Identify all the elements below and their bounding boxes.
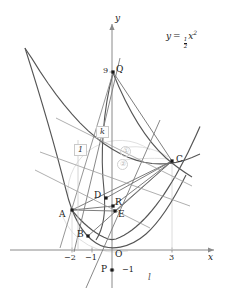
point-P: [110, 268, 113, 271]
annotation-callout-2: ②: [117, 159, 128, 170]
point-label-P: P: [101, 265, 107, 274]
x-tick-label-3: 3: [169, 254, 174, 262]
equation-denominator: 2: [184, 43, 188, 50]
point-D: [104, 196, 107, 199]
x-tick-label--2: −2: [64, 254, 76, 262]
segment-A-E: [72, 210, 115, 211]
plotted-points: [70, 70, 173, 271]
origin-label: O: [115, 250, 122, 259]
y-tick-label-9: 9: [103, 67, 108, 75]
equation-label: y=12x2: [166, 30, 197, 49]
point-label-B: B: [77, 230, 84, 239]
point-label-C: C: [176, 155, 183, 164]
point-label-R: R: [115, 198, 122, 207]
equation-lhs: y: [166, 31, 171, 41]
point-E: [113, 209, 116, 212]
equation-fraction: 12: [184, 37, 188, 50]
y-tick-label--1: −1: [122, 266, 134, 274]
measure-label-1: 1: [74, 144, 87, 156]
line-Q-down-left: [60, 73, 113, 248]
math-figure: x y O −2 −1 3 9 −1 A B C D E P Q R y=12x…: [0, 0, 225, 298]
tick-marks: [72, 72, 172, 270]
point-B: [86, 234, 89, 237]
equation-exponent: 2: [193, 29, 197, 36]
y-axis-label: y: [115, 14, 120, 23]
point-C: [170, 159, 173, 162]
point-label-D: D: [94, 191, 101, 200]
point-label-E: E: [118, 210, 125, 219]
annotation-callout-1: ①: [120, 146, 131, 157]
point-A: [70, 208, 73, 211]
point-label-A: A: [59, 210, 66, 219]
line-label-l: l: [148, 273, 151, 282]
y-axis-arrow: [109, 24, 114, 30]
tangent-line-A: [35, 170, 150, 228]
x-tick-label--1: −1: [85, 254, 97, 262]
x-axis-label: x: [208, 253, 213, 262]
axis-group: [10, 24, 214, 288]
line-l: [86, 120, 160, 288]
secondary-conic: [25, 48, 186, 248]
point-label-Q: Q: [116, 65, 123, 74]
equation-eq: =: [173, 31, 181, 41]
point-Q: [111, 70, 114, 73]
line-label-k: k: [96, 126, 109, 138]
